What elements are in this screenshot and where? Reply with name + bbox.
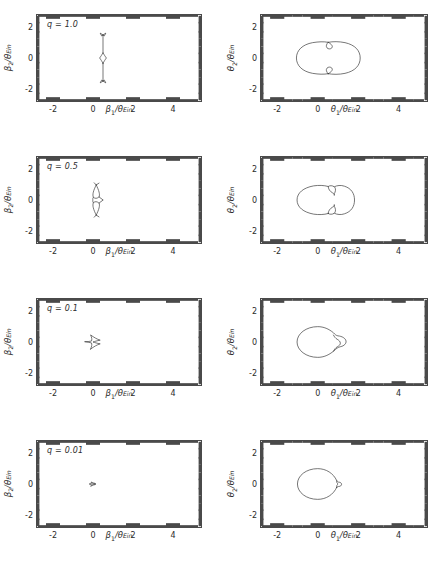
plot-frame: q = 0.01: [36, 440, 202, 528]
tick-marks: [261, 441, 427, 527]
y-tick-labels: 2 0 -2: [32, 441, 33, 527]
y-tick-labels: 2 0 -2: [32, 157, 33, 243]
minor-tick-marks: [261, 299, 427, 385]
tick-marks: [37, 157, 201, 243]
panel-critical-q001: θ2/θEin: [219, 426, 438, 568]
minor-tick-marks: [261, 157, 427, 243]
yaxis-title-theta2: θ2/θEin: [226, 298, 238, 386]
minor-tick-marks: [261, 441, 427, 527]
xaxis-title-beta1: β1/θEin: [36, 530, 202, 542]
yaxis-title-theta2: θ2/θEin: [226, 440, 238, 528]
plot-frame: q = 0.5: [36, 156, 202, 244]
y-tick-labels: 2 0 -2: [32, 299, 33, 385]
tick-marks: [37, 299, 201, 385]
caustic-curve: [93, 183, 103, 217]
panel-caustic-q1: β2/θEin q = 1.0: [0, 0, 219, 142]
y-tick-labels: 2 0 -2: [256, 157, 257, 243]
minor-tick-marks: [37, 15, 201, 101]
caustic-plot: [37, 15, 201, 101]
caustic-plot: [37, 299, 201, 385]
plot-frame: q = 0.1: [36, 298, 202, 386]
caustic-plot: [37, 441, 201, 527]
caustic-curve: [100, 33, 107, 83]
panel-caustic-q01: β2/θEin q = 0.1: [0, 284, 219, 426]
critical-curve-plot: [261, 441, 427, 527]
panel-caustic-q05: β2/θEin q = 0.5: [0, 142, 219, 284]
panel-critical-q05: θ2/θEin: [219, 142, 438, 284]
panel-row-3: β2/θEin q = 0.01: [0, 426, 439, 571]
tick-marks: [261, 299, 427, 385]
yaxis-title-beta2: β2/θEin: [2, 14, 14, 102]
yaxis-title-beta2: β2/θEin: [2, 440, 14, 528]
plot-frame: 2 0 -2 -2 0 2 4: [260, 14, 428, 102]
xaxis-title-theta1: θ1/θEin: [260, 246, 428, 258]
caustic-curve: [89, 482, 95, 486]
minor-tick-marks: [37, 157, 201, 243]
critical-curve-plot: [261, 299, 427, 385]
caustic-curve: [85, 335, 101, 349]
plot-frame: 2 0 -2 -2 0 2 4: [260, 156, 428, 244]
y-tick-labels: 2 0 -2: [256, 15, 257, 101]
yaxis-title-theta2: θ2/θEin: [226, 14, 238, 102]
xaxis-title-beta1: β1/θEin: [36, 104, 202, 116]
y-tick-labels: 2 0 -2: [256, 299, 257, 385]
tick-marks: [37, 15, 201, 101]
panel-critical-q1: θ2/θEin: [219, 0, 438, 142]
y-tick-labels: 2 0 -2: [256, 441, 257, 527]
xaxis-title-theta1: θ1/θEin: [260, 388, 428, 400]
yaxis-title-beta2: β2/θEin: [2, 298, 14, 386]
minor-tick-marks: [261, 15, 427, 101]
panel-critical-q01: θ2/θEin: [219, 284, 438, 426]
yaxis-title-beta2: β2/θEin: [2, 156, 14, 244]
critical-curve: [297, 327, 346, 358]
xaxis-title-beta1: β1/θEin: [36, 246, 202, 258]
xaxis-title-beta1: β1/θEin: [36, 388, 202, 400]
critical-curve-plot: [261, 157, 427, 243]
tick-marks: [37, 441, 201, 527]
plot-frame: 2 0 -2 -2 0 2 4: [260, 298, 428, 386]
critical-curve-plot: [261, 15, 427, 101]
panel-row-2: β2/θEin q = 0.1: [0, 284, 439, 426]
panel-row-1: β2/θEin q = 0.5: [0, 142, 439, 284]
y-tick-labels: 2 0 -2: [32, 15, 33, 101]
minor-tick-marks: [37, 299, 201, 385]
panel-row-0: β2/θEin q = 1.0: [0, 0, 439, 142]
caustic-plot: [37, 157, 201, 243]
plot-frame: 2 0 -2 -2 0 2 4: [260, 440, 428, 528]
tick-marks: [261, 157, 427, 243]
xaxis-title-theta1: θ1/θEin: [260, 104, 428, 116]
plot-frame: q = 1.0: [36, 14, 202, 102]
tick-marks: [261, 15, 427, 101]
lensing-caustics-figure: β2/θEin q = 1.0: [0, 0, 439, 571]
critical-curve: [296, 42, 360, 75]
panel-caustic-q001: β2/θEin q = 0.01: [0, 426, 219, 568]
critical-curve: [297, 185, 354, 214]
yaxis-title-theta2: θ2/θEin: [226, 156, 238, 244]
xaxis-title-theta1: θ1/θEin: [260, 530, 428, 542]
critical-curve: [297, 469, 341, 500]
minor-tick-marks: [37, 441, 201, 527]
